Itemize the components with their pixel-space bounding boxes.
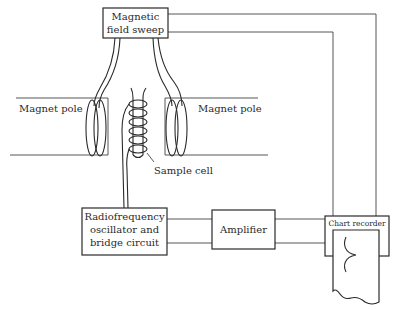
left-sweep-coil bbox=[86, 38, 120, 156]
sweep-to-recorder-wires bbox=[168, 14, 376, 216]
chart-recorder-label: Chart recorder bbox=[328, 219, 386, 228]
right-sweep-coil bbox=[153, 38, 187, 156]
rf-coil bbox=[129, 100, 147, 153]
nmr-diagram: Magnetic field sweep Magnet pole Magnet … bbox=[0, 0, 398, 311]
rf-label-line2: oscillator and bbox=[90, 224, 160, 235]
rf-to-amplifier-wires bbox=[167, 219, 212, 243]
left-pole-label: Magnet pole bbox=[19, 103, 83, 114]
rf-label-line3: bridge circuit bbox=[90, 237, 159, 248]
chart-recorder bbox=[325, 216, 389, 304]
sweep-label-line2: field sweep bbox=[107, 24, 164, 35]
right-pole-label: Magnet pole bbox=[198, 103, 262, 114]
sample-cell-pointer bbox=[147, 153, 154, 162]
sample-cell-label: Sample cell bbox=[154, 165, 213, 176]
sweep-label-line1: Magnetic bbox=[112, 11, 160, 22]
amplifier-label: Amplifier bbox=[219, 224, 267, 235]
sample-cell bbox=[131, 88, 146, 158]
amplifier-to-recorder-wires bbox=[275, 219, 325, 243]
rf-label-line1: Radiofrequency bbox=[84, 211, 165, 222]
rf-coil-leads bbox=[122, 104, 129, 208]
